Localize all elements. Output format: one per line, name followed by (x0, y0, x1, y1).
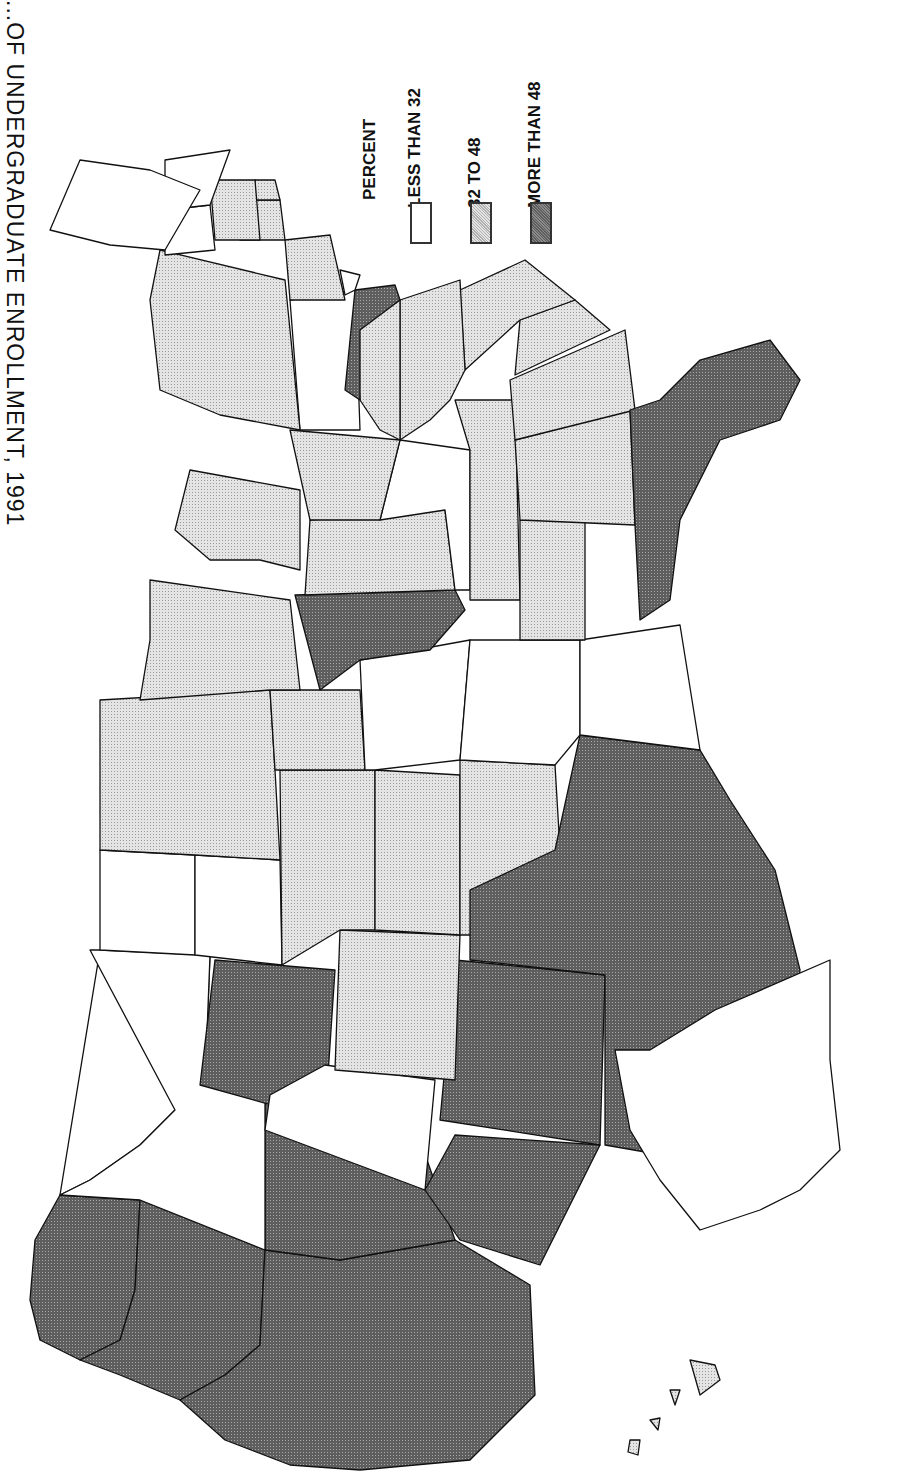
state-MA (210, 180, 260, 240)
state-MS (520, 520, 585, 640)
state-HI-4 (628, 1440, 640, 1455)
legend-swatch-high (530, 202, 552, 244)
state-AR (460, 640, 580, 765)
state-WI (140, 580, 300, 700)
state-NJ (285, 235, 345, 300)
state-MO (360, 640, 470, 770)
state-HI-2 (670, 1390, 680, 1405)
state-IN (305, 510, 455, 595)
state-VA (400, 280, 465, 440)
legend-swatch-low (410, 202, 432, 244)
legend-label-mid: 32 TO 48 (465, 137, 485, 208)
state-OH (290, 430, 400, 520)
state-MN (100, 690, 280, 860)
state-IA (270, 690, 365, 770)
state-KS (375, 770, 460, 935)
legend-label-low: LESS THAN 32 (405, 88, 425, 208)
state-NM (440, 960, 605, 1145)
state-LA (580, 625, 700, 750)
state-MI (175, 470, 300, 570)
legend-swatch-mid (470, 202, 492, 244)
state-HI-3 (650, 1418, 660, 1430)
state-RI (255, 180, 280, 200)
state-NY (150, 250, 300, 430)
state-HI-1 (690, 1360, 720, 1395)
legend-label-high: MORE THAN 48 (525, 81, 545, 208)
state-CO (335, 930, 460, 1080)
legend: PERCENT LESS THAN 32 32 TO 48 MORE THAN … (360, 30, 620, 270)
legend-heading: PERCENT (360, 119, 380, 200)
state-ND (100, 850, 195, 955)
state-FL (630, 340, 800, 620)
state-SD (195, 855, 282, 965)
